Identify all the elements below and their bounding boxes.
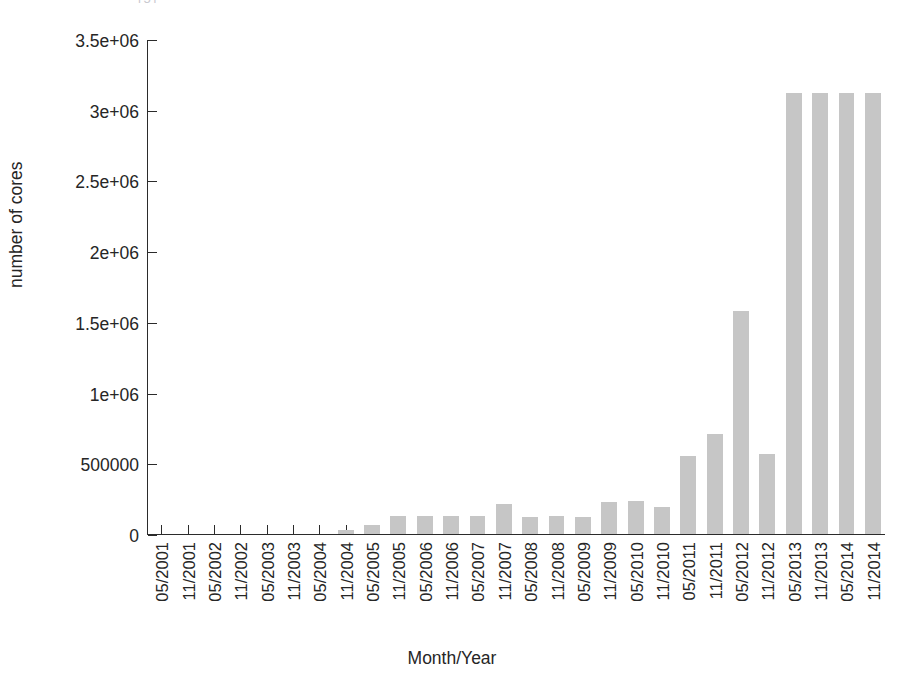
bar xyxy=(417,516,433,534)
x-axis-tick-label: 11/2004 xyxy=(337,542,356,600)
bar xyxy=(759,454,775,534)
x-axis-tick-label: 11/2009 xyxy=(601,542,620,600)
y-axis-tick-label: 0 xyxy=(129,526,139,547)
y-axis-tick: 1.5e+06 xyxy=(148,323,157,324)
x-axis-tick-label: 05/2010 xyxy=(627,542,646,602)
x-axis-tick: 11/2003 xyxy=(293,525,294,534)
bar xyxy=(865,93,881,534)
y-axis-tick-label: 500000 xyxy=(81,455,139,476)
bar xyxy=(549,516,565,534)
bar xyxy=(839,93,855,534)
y-axis-tick: 1e+06 xyxy=(148,394,157,395)
bar xyxy=(812,93,828,534)
bar xyxy=(680,456,696,534)
bar xyxy=(522,517,538,534)
y-axis-tick-label: 2.5e+06 xyxy=(75,172,139,193)
x-axis-tick: 11/2002 xyxy=(240,525,241,534)
x-axis-tick-label: 05/2001 xyxy=(153,542,172,602)
x-axis-tick-label: 11/2007 xyxy=(495,542,514,600)
bar xyxy=(338,530,354,534)
x-axis-tick-label: 11/2013 xyxy=(812,542,831,600)
bar-chart-figure: [5] number of cores 05000001e+061.5e+062… xyxy=(0,0,904,682)
bar xyxy=(390,516,406,534)
x-axis-tick-label: 05/2006 xyxy=(416,542,435,602)
x-axis-tick: 05/2001 xyxy=(161,525,162,534)
x-axis-title: Month/Year xyxy=(0,648,904,669)
x-axis-tick-label: 05/2003 xyxy=(258,542,277,602)
y-axis-tick-label: 2e+06 xyxy=(90,243,139,264)
x-axis-tick-label: 11/2001 xyxy=(179,542,198,600)
bar xyxy=(364,525,380,534)
y-axis-title: number of cores xyxy=(6,162,27,288)
x-axis-tick-label: 11/2012 xyxy=(759,542,778,600)
y-axis-tick: 2e+06 xyxy=(148,252,157,253)
y-axis-tick: 3e+06 xyxy=(148,111,157,112)
x-axis-tick-label: 05/2009 xyxy=(574,542,593,602)
x-axis-tick-label: 11/2002 xyxy=(232,542,251,600)
x-axis-tick-label: 05/2007 xyxy=(469,542,488,602)
x-axis-tick-label: 11/2014 xyxy=(864,542,883,600)
x-axis-tick-label: 05/2004 xyxy=(311,542,330,602)
x-axis-tick: 05/2004 xyxy=(319,525,320,534)
bar xyxy=(496,504,512,534)
x-axis-tick-label: 05/2014 xyxy=(838,542,857,602)
bar xyxy=(654,507,670,534)
x-axis-tick-label: 11/2003 xyxy=(284,542,303,600)
y-axis-tick: 500000 xyxy=(148,464,157,465)
x-axis-tick: 05/2003 xyxy=(267,525,268,534)
bar xyxy=(628,501,644,534)
x-axis-tick-label: 05/2008 xyxy=(522,542,541,602)
x-axis-tick-label: 11/2006 xyxy=(443,542,462,600)
y-axis-tick-label: 1e+06 xyxy=(90,384,139,405)
y-axis-tick-label: 3.5e+06 xyxy=(75,31,139,52)
y-axis-tick-label: 3e+06 xyxy=(90,101,139,122)
bar xyxy=(443,516,459,534)
y-axis-tick-label: 1.5e+06 xyxy=(75,313,139,334)
y-axis-tick: 0 xyxy=(148,535,157,536)
y-axis-tick: 3.5e+06 xyxy=(148,40,157,41)
x-axis-tick: 11/2001 xyxy=(188,525,189,534)
x-axis-tick-label: 11/2010 xyxy=(653,542,672,600)
x-axis-tick-label: 11/2005 xyxy=(390,542,409,600)
x-axis-tick-label: 05/2002 xyxy=(205,542,224,602)
x-axis-tick-label: 11/2008 xyxy=(548,542,567,600)
x-axis-tick-label: 05/2012 xyxy=(733,542,752,602)
x-axis-tick-label: 05/2005 xyxy=(364,542,383,602)
plot-area: 05000001e+061.5e+062e+062.5e+063e+063.5e… xyxy=(147,40,885,535)
bar xyxy=(707,434,723,534)
x-axis-tick: 05/2002 xyxy=(214,525,215,534)
bar xyxy=(786,93,802,534)
bar xyxy=(733,311,749,534)
bar xyxy=(601,502,617,534)
bar xyxy=(575,517,591,534)
clipped-caption-text: [5] xyxy=(138,0,198,3)
x-axis-tick-label: 05/2013 xyxy=(785,542,804,602)
x-axis-tick-label: 05/2011 xyxy=(680,542,699,600)
y-axis-tick: 2.5e+06 xyxy=(148,181,157,182)
bar xyxy=(470,516,486,534)
x-axis-tick-label: 11/2011 xyxy=(706,542,725,599)
